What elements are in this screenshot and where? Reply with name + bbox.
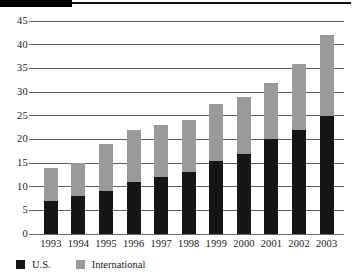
- chart-legend: U.S.International: [16, 257, 145, 271]
- bar-segment-international[interactable]: [292, 64, 306, 130]
- bar-group[interactable]: [292, 64, 306, 234]
- bar-group[interactable]: [99, 144, 113, 234]
- bar-segment-us[interactable]: [182, 172, 196, 234]
- bar-segment-international[interactable]: [44, 168, 58, 201]
- bar-segment-international[interactable]: [71, 163, 85, 196]
- bar-segment-us[interactable]: [264, 139, 278, 234]
- bar-segment-international[interactable]: [209, 104, 223, 161]
- y-axis-tick-label: 15: [2, 158, 28, 169]
- header-black-block: [0, 0, 72, 7]
- legend-label: U.S.: [32, 259, 51, 270]
- bar-segment-us[interactable]: [154, 177, 168, 234]
- bar-segment-international[interactable]: [320, 35, 334, 115]
- bar-group[interactable]: [320, 35, 334, 234]
- y-axis-tick-label: 40: [2, 40, 28, 51]
- bar-series-container: [31, 21, 344, 234]
- legend-item[interactable]: U.S.: [16, 259, 51, 270]
- bar-segment-international[interactable]: [154, 125, 168, 177]
- legend-swatch-icon: [76, 260, 85, 269]
- y-axis-tick-label: 35: [2, 63, 28, 74]
- legend-item[interactable]: International: [76, 259, 146, 270]
- header-band: [0, 0, 355, 9]
- bar-segment-international[interactable]: [264, 83, 278, 140]
- bar-segment-us[interactable]: [99, 191, 113, 234]
- y-axis-tick-label: 20: [2, 134, 28, 145]
- stacked-bar-chart-figure: 051015202530354045 199319941995199619971…: [0, 0, 355, 275]
- bar-group[interactable]: [71, 163, 85, 234]
- bar-segment-us[interactable]: [44, 201, 58, 234]
- bar-segment-us[interactable]: [127, 182, 141, 234]
- bar-group[interactable]: [264, 83, 278, 234]
- bar-segment-international[interactable]: [182, 120, 196, 172]
- bar-segment-us[interactable]: [71, 196, 85, 234]
- y-axis-tick-label: 0: [2, 229, 28, 240]
- bar-group[interactable]: [209, 104, 223, 234]
- bar-segment-us[interactable]: [237, 154, 251, 234]
- bar-group[interactable]: [44, 168, 58, 234]
- bar-group[interactable]: [154, 125, 168, 234]
- bar-group[interactable]: [237, 97, 251, 234]
- legend-swatch-icon: [16, 260, 25, 269]
- y-axis-tick-label: 30: [2, 87, 28, 98]
- y-axis-tick-label: 25: [2, 111, 28, 122]
- bar-group[interactable]: [182, 120, 196, 234]
- x-axis-tick-label: 2003: [311, 238, 343, 250]
- bar-segment-us[interactable]: [320, 116, 334, 234]
- legend-label: International: [92, 259, 146, 270]
- bar-segment-international[interactable]: [127, 130, 141, 182]
- x-axis-baseline: [31, 234, 344, 235]
- y-axis-tick-label: 5: [2, 205, 28, 216]
- bar-segment-us[interactable]: [209, 161, 223, 234]
- bar-segment-international[interactable]: [237, 97, 251, 154]
- bar-segment-international[interactable]: [99, 144, 113, 191]
- bar-segment-us[interactable]: [292, 130, 306, 234]
- x-axis: 1993199419951996199719981999200020012002…: [31, 238, 344, 252]
- bar-group[interactable]: [127, 130, 141, 234]
- header-horizontal-rule: [72, 2, 351, 4]
- plot-area: [31, 21, 344, 234]
- y-axis-tick-label: 45: [2, 16, 28, 27]
- y-axis: 051015202530354045: [0, 21, 28, 234]
- y-axis-tick-label: 10: [2, 182, 28, 193]
